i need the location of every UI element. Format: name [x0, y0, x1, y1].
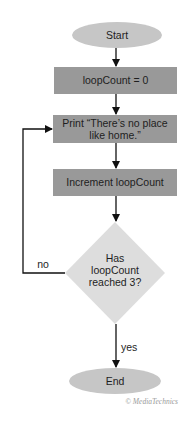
start-label: Start: [106, 29, 128, 41]
copyright-credit: © MediaTechnics: [125, 397, 178, 406]
init-node: loopCount = 0: [54, 67, 177, 94]
start-node: Start: [72, 22, 162, 48]
flowchart: Start loopCount = 0 Print “There’s no pl…: [0, 0, 192, 427]
no-label: no: [37, 258, 49, 270]
print-node: Print “There’s no place like home.”: [53, 115, 177, 143]
increment-node: Increment loopCount: [53, 169, 177, 196]
increment-label: Increment loopCount: [66, 176, 164, 188]
decision-label-line-1: Has: [106, 252, 125, 264]
decision-label-line-2: loopCount: [91, 264, 139, 276]
decision-node: Has loopCount reached 3?: [65, 222, 165, 324]
print-label-line-1: Print “There’s no place: [62, 117, 168, 129]
end-node: End: [69, 368, 161, 394]
edge-decision-print-no: [23, 129, 65, 273]
yes-label: yes: [121, 341, 137, 353]
decision-label-line-3: reached 3?: [89, 276, 142, 288]
print-label-line-2: like home.”: [89, 129, 141, 141]
end-label: End: [106, 375, 125, 387]
init-label: loopCount = 0: [83, 74, 149, 86]
